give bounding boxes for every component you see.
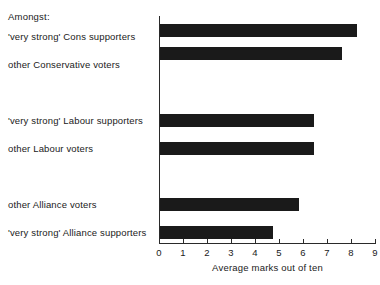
category-label-3: other Labour voters — [8, 143, 153, 154]
bar-4 — [160, 198, 299, 211]
category-label-2: 'very strong' Labour supporters — [8, 115, 153, 126]
x-tick-6 — [303, 239, 304, 244]
bar-3 — [160, 142, 314, 155]
x-axis-title: Average marks out of ten — [159, 262, 376, 273]
category-label-1: other Conservative voters — [8, 59, 153, 70]
x-tick-3 — [231, 239, 232, 244]
bar-0 — [160, 24, 357, 37]
category-label-5: 'very strong' Alliance supporters — [8, 227, 153, 238]
x-tick-label-9: 9 — [365, 247, 380, 258]
intro-label: Amongst: — [8, 11, 50, 22]
category-label-0: 'very strong' Cons supporters — [8, 31, 153, 42]
x-tick-5 — [279, 239, 280, 244]
x-tick-0 — [159, 239, 160, 244]
x-tick-4 — [255, 239, 256, 244]
x-tick-9 — [375, 239, 376, 244]
x-tick-label-0: 0 — [149, 247, 169, 258]
x-tick-label-8: 8 — [341, 247, 361, 258]
x-tick-label-1: 1 — [173, 247, 193, 258]
bar-5 — [160, 226, 273, 239]
x-tick-label-5: 5 — [269, 247, 289, 258]
x-tick-label-3: 3 — [221, 247, 241, 258]
x-tick-2 — [207, 239, 208, 244]
x-axis-line — [159, 243, 375, 244]
x-tick-8 — [351, 239, 352, 244]
category-label-4: other Alliance voters — [8, 199, 153, 210]
x-tick-label-6: 6 — [293, 247, 313, 258]
x-tick-label-4: 4 — [245, 247, 265, 258]
bar-2 — [160, 114, 314, 127]
bar-chart: Amongst: 'very strong' Cons supporters o… — [0, 0, 380, 285]
x-tick-1 — [183, 239, 184, 244]
x-tick-label-7: 7 — [317, 247, 337, 258]
x-tick-7 — [327, 239, 328, 244]
bar-1 — [160, 47, 342, 60]
x-tick-label-2: 2 — [197, 247, 217, 258]
plot-area: 0123456789 — [159, 16, 376, 243]
